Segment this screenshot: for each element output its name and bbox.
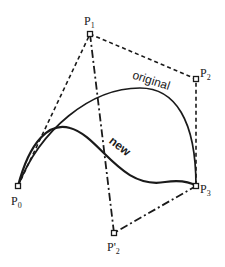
- label-p2prime: P'2: [107, 240, 120, 256]
- label-p2: P2: [200, 66, 211, 82]
- label-p1: P1: [84, 14, 95, 30]
- bezier-diagram: P0 P1 P2 P3 P'2 original new: [0, 0, 225, 267]
- control-point-p0-marker: [16, 184, 21, 189]
- new-control-polygon: [90, 34, 196, 233]
- original-control-polygon: [18, 34, 196, 186]
- label-p0: P0: [11, 194, 22, 210]
- label-new-curve: new: [106, 134, 134, 160]
- control-point-p2prime-marker: [112, 231, 117, 236]
- label-p3: P3: [200, 182, 211, 198]
- original-curve: [18, 88, 196, 186]
- control-point-p3-marker: [194, 184, 199, 189]
- control-point-p1-marker: [88, 32, 93, 37]
- control-point-p2-marker: [194, 77, 199, 82]
